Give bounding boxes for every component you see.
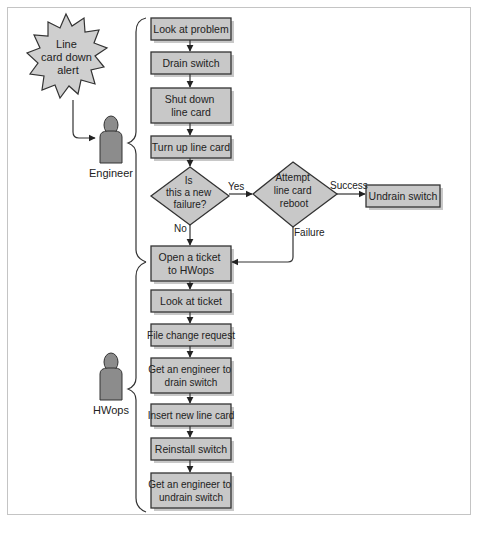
engineer-brace xyxy=(128,18,146,262)
step-label-line-1: Shut down xyxy=(165,93,215,105)
step-label-line-2: drain switch xyxy=(165,377,218,388)
step-label: File change request xyxy=(147,330,235,341)
step-label-line-1: Get an engineer to xyxy=(148,479,231,490)
engineer-person-icon xyxy=(100,116,122,163)
step-label-line-2: to HWops xyxy=(168,264,214,276)
alert-label-line-3: alert xyxy=(57,64,78,76)
engineer-label: Engineer xyxy=(89,167,133,179)
decision-label-line-2: this a new xyxy=(166,187,212,198)
step-label: Undrain switch xyxy=(369,190,438,202)
svg-text:Shut down line card: Shut down line card xyxy=(165,93,218,118)
step-label: Drain switch xyxy=(162,57,219,69)
step-label: Reinstall switch xyxy=(155,443,228,455)
step-label: Turn up line card xyxy=(152,141,231,153)
step-label-line-2: line card xyxy=(171,106,211,118)
alert-label-line-2: card down xyxy=(41,51,92,63)
edge-label-failure: Failure xyxy=(294,227,325,238)
step-label: Look at problem xyxy=(153,23,229,35)
step-label-line-1: Get an engineer to xyxy=(148,364,231,375)
decision-label-line-1: Is xyxy=(185,175,193,186)
step-label: Look at ticket xyxy=(160,295,222,307)
hwops-brace xyxy=(128,262,146,512)
alert-to-engineer-arrow xyxy=(73,100,95,138)
decision-label-line-1: Attempt xyxy=(275,172,310,183)
flowchart: Line card down alert Engineer HWops Look… xyxy=(0,0,479,533)
step-label: Insert new line card xyxy=(148,410,235,421)
alert-label-line-1: Line xyxy=(56,38,77,50)
edge-label-no: No xyxy=(174,223,187,234)
hwops-label: HWops xyxy=(93,404,129,416)
step-label-line-1: Open a ticket xyxy=(159,251,221,263)
svg-text:Open a ticket to HWops: Open a ticket to HWops xyxy=(159,251,224,276)
step-label-line-2: undrain switch xyxy=(159,492,223,503)
decision-label-line-2: line card xyxy=(274,185,312,196)
alert-starburst-icon: Line card down alert xyxy=(27,14,107,98)
hwops-person-icon xyxy=(100,353,122,400)
decision-label-line-3: failure? xyxy=(174,199,207,210)
edge-label-success: Success xyxy=(330,180,368,191)
edge-label-yes: Yes xyxy=(228,181,244,192)
decision-label-line-3: reboot xyxy=(280,198,309,209)
